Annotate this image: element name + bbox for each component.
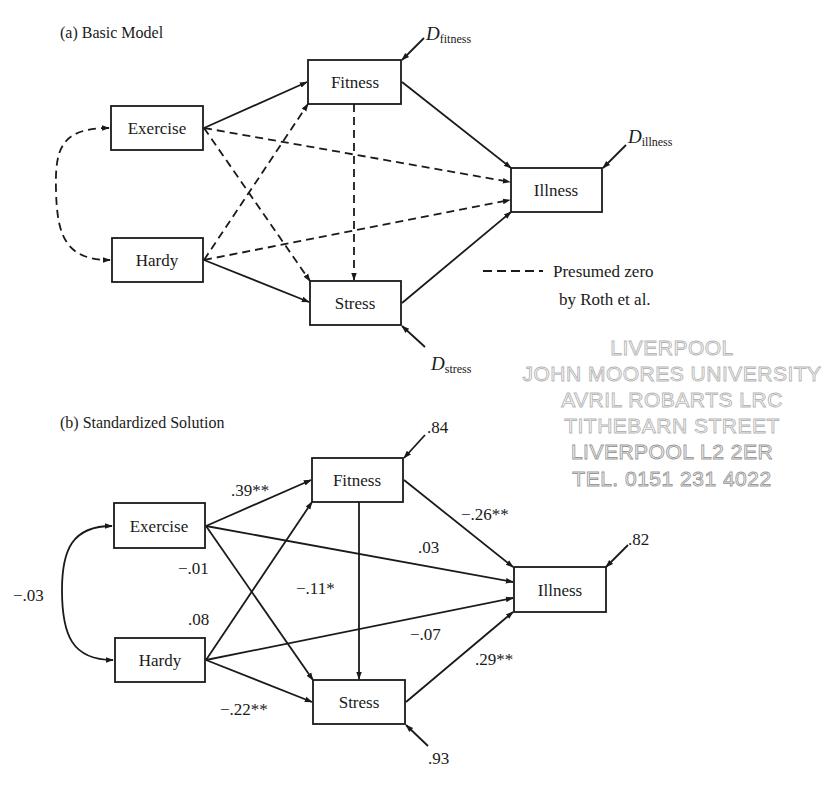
coef-hardy-illness: −.07 [410, 625, 441, 644]
node-label: Illness [534, 181, 578, 200]
node-illness: Illness [511, 168, 602, 212]
coef-fitness-illness: −.26** [461, 505, 509, 524]
node-exercise: Exercise [114, 503, 205, 548]
edge-exercise-fitness [204, 82, 307, 128]
stamp-line-5: LIVERPOOL L2 2ER [571, 440, 773, 463]
disturbance-arrow-fitness [404, 435, 425, 458]
coef-stress-illness: .29** [475, 650, 513, 669]
edge-exercise-stress-dashed [204, 128, 310, 281]
legend-label-line2: by Roth et al. [559, 290, 651, 309]
node-stress: Stress [310, 281, 401, 325]
panel-a-title: (a) Basic Model [60, 24, 164, 42]
coef-exercise-stress: −.01 [178, 559, 209, 578]
stamp-line-3: AVRIL ROBARTS LRC [561, 388, 783, 411]
disturbance-label-stress: Dstress [430, 353, 472, 376]
disturbance-label-illness: Dillness [627, 126, 673, 149]
edge-hardy-fitness-dashed [204, 104, 308, 260]
panel-b-title: (b) Standardized Solution [60, 414, 224, 432]
edge-exercise-hardy-covariance [56, 128, 110, 260]
node-label: Fitness [333, 471, 381, 490]
node-label: Illness [538, 581, 582, 600]
node-stress: Stress [313, 680, 405, 724]
edge-hardy-stress [206, 660, 312, 702]
coef-exercise-fitness: .39** [231, 481, 269, 500]
coef-fitness-stress: −.11* [296, 579, 335, 598]
library-stamp: LIVERPOOL JOHN MOORES UNIVERSITY AVRIL R… [522, 336, 821, 490]
node-illness: Illness [514, 567, 606, 612]
stamp-line-4: TITHEBARN STREET [564, 414, 780, 437]
panel-b-standardized-solution: (b) Standardized Solution Exercise Hardy… [13, 414, 649, 768]
path-diagram-figure: LIVERPOOL JOHN MOORES UNIVERSITY AVRIL R… [0, 0, 837, 785]
node-label: Hardy [136, 251, 179, 270]
edge-fitness-illness [402, 82, 511, 168]
node-hardy: Hardy [115, 638, 205, 682]
disturbance-value-fitness: .84 [427, 418, 449, 437]
edge-hardy-stress [204, 260, 309, 302]
legend: Presumed zero by Roth et al. [483, 262, 654, 309]
edge-exercise-illness-dashed [204, 128, 510, 182]
node-exercise: Exercise [111, 106, 203, 150]
disturbance-arrow-stress [406, 725, 428, 746]
disturbance-label-fitness: Dfitness [425, 23, 471, 46]
node-label: Fitness [331, 73, 379, 92]
node-fitness: Fitness [308, 60, 401, 104]
disturbance-value-stress: .93 [428, 749, 449, 768]
coef-exercise-illness: .03 [418, 538, 439, 557]
disturbance-value-illness: .82 [628, 530, 649, 549]
coef-exercise-hardy: −.03 [13, 586, 44, 605]
coef-hardy-stress: −.22** [220, 700, 268, 719]
legend-label-line1: Presumed zero [553, 262, 654, 281]
edge-stress-illness [402, 212, 511, 303]
node-label: Stress [339, 693, 380, 712]
stamp-line-2: JOHN MOORES UNIVERSITY [522, 362, 821, 385]
disturbance-arrow-illness [603, 145, 626, 168]
stamp-line-1: LIVERPOOL [610, 336, 734, 359]
stamp-line-6: TEL. 0151 231 4022 [572, 467, 771, 490]
disturbance-arrow-fitness [402, 38, 424, 60]
node-hardy: Hardy [112, 238, 203, 282]
panel-a-basic-model: (a) Basic Model Dfitness Dillness Dstres… [56, 23, 673, 376]
node-label: Hardy [139, 651, 182, 670]
coef-hardy-fitness: .08 [188, 610, 209, 629]
disturbance-arrow-illness [606, 545, 628, 567]
edge-exercise-hardy-covariance [62, 526, 113, 660]
node-label: Exercise [128, 119, 187, 138]
disturbance-arrow-stress [402, 326, 425, 347]
node-label: Stress [335, 294, 376, 313]
node-label: Exercise [130, 517, 189, 536]
node-fitness: Fitness [312, 458, 403, 502]
